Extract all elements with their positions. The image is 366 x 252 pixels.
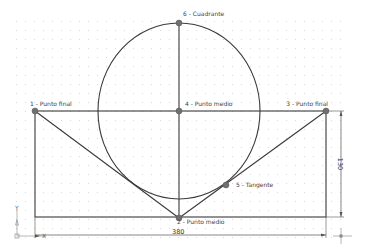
x-axis-label: X [42,232,46,239]
snap-point-marker-p3[interactable] [323,108,329,114]
snap-point-label-p5: 5 - Tangente [236,181,274,189]
snap-point-label-p1: 1 - Punto final [30,100,72,107]
snap-point-label-p6: 6 - Cuadrante [183,10,225,17]
cad-drawing-canvas[interactable]: 380 130 Y X 1 - Punto final2 - Punto med… [0,0,366,252]
dimension-vertical[interactable]: 130 [326,111,344,217]
rectangle-shape[interactable] [35,111,326,217]
snap-point-label-p2: 2 - Punto medio [177,218,225,225]
crosshair-cursor-icon [333,228,352,244]
ucs-axes-icon: Y X [14,204,46,239]
snap-point-label-p3: 3 - Punto final [286,100,328,107]
right-tangent-line[interactable] [179,111,326,218]
snap-point-marker-p6[interactable] [176,20,182,26]
vertical-dimension-value[interactable]: 130 [336,158,344,170]
snap-point-marker-p5[interactable] [223,182,229,188]
y-axis-label: Y [14,204,19,211]
snap-point-marker-p1[interactable] [32,108,38,114]
geometry [35,23,326,218]
snap-point-marker-p4[interactable] [176,108,182,114]
snap-points [32,20,329,221]
horizontal-dimension-value[interactable]: 380 [172,228,184,236]
snap-point-label-p4: 4 - Punto medio [185,100,233,107]
